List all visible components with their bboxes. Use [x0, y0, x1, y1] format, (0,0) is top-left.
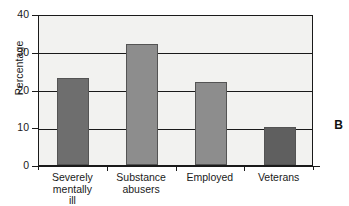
y-tick-mark	[32, 53, 38, 54]
y-axis-title: Percentage	[13, 13, 25, 123]
x-axis-category-label: Substance abusers	[107, 172, 176, 195]
y-tick-label: 20	[17, 84, 29, 96]
bar-chart-figure: Percentage 010203040 Severely mentally i…	[0, 0, 349, 206]
x-axis-category-label: Employed	[176, 172, 245, 184]
y-tick-label: 10	[17, 121, 29, 133]
y-tick-label: 0	[23, 159, 29, 171]
y-tick-mark	[32, 15, 38, 16]
x-tick-mark	[244, 166, 245, 171]
x-axis-start-tick	[38, 166, 39, 170]
plot-area	[38, 15, 313, 166]
gridline-30	[39, 53, 312, 54]
y-tick-label: 40	[17, 8, 29, 20]
bar	[126, 44, 158, 165]
x-axis-category-label: Veterans	[244, 172, 313, 184]
y-tick-label: 30	[17, 46, 29, 58]
bar	[57, 78, 89, 165]
x-tick-mark	[176, 166, 177, 171]
bar	[264, 127, 296, 165]
x-axis-category-label: Severely mentally ill	[38, 172, 107, 206]
x-tick-mark	[107, 166, 108, 171]
y-tick-mark	[32, 128, 38, 129]
x-axis-end-tick	[313, 166, 314, 170]
y-tick-mark	[32, 91, 38, 92]
panel-letter: B	[334, 118, 343, 132]
bar	[195, 82, 227, 165]
